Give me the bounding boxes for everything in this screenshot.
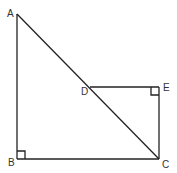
label-a: A (7, 8, 14, 19)
geometry-diagram: A B C D E (0, 0, 177, 173)
diagram-canvas: A B C D E (0, 0, 177, 173)
label-b: B (8, 157, 15, 168)
label-c: C (162, 159, 169, 170)
right-angle-marker-b (17, 151, 25, 159)
right-angle-marker-e (151, 87, 159, 95)
label-e: E (163, 82, 170, 93)
label-d: D (81, 86, 88, 97)
